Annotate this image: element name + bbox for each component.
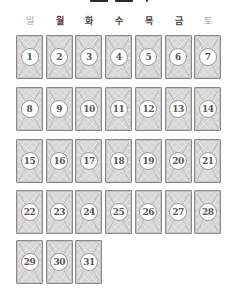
- day-card[interactable]: 11: [105, 87, 132, 131]
- day-card[interactable]: 30: [46, 240, 73, 284]
- day-number: 9: [56, 105, 62, 114]
- day-number: 16: [53, 157, 65, 166]
- day-number-badge: 20: [169, 152, 187, 170]
- day-number: 1: [27, 53, 33, 62]
- day-card[interactable]: 17: [75, 139, 102, 183]
- day-number: 23: [53, 208, 65, 217]
- day-card[interactable]: 1: [16, 35, 43, 79]
- weekday-tue: 화: [75, 14, 103, 28]
- day-number: 13: [172, 105, 184, 114]
- day-card[interactable]: 6: [165, 35, 192, 79]
- day-number-badge: 17: [80, 152, 98, 170]
- day-number: 6: [175, 53, 181, 62]
- weekday-wed: 수: [105, 14, 133, 28]
- day-card[interactable]: 29: [16, 240, 43, 284]
- day-number: 10: [83, 105, 95, 114]
- day-card[interactable]: 3: [75, 35, 102, 79]
- day-number-badge: 4: [110, 48, 128, 66]
- day-number-badge: 21: [199, 152, 217, 170]
- day-number: 19: [143, 157, 155, 166]
- day-number-badge: 13: [169, 100, 187, 118]
- day-number: 11: [113, 105, 125, 114]
- day-card[interactable]: 2: [46, 35, 73, 79]
- day-card[interactable]: 26: [135, 190, 162, 234]
- day-number: 27: [172, 208, 184, 217]
- day-card[interactable]: 13: [165, 87, 192, 131]
- day-card[interactable]: 4: [105, 35, 132, 79]
- day-number-badge: 3: [80, 48, 98, 66]
- title-glyph: [115, 0, 133, 2]
- day-number-badge: 10: [80, 100, 98, 118]
- day-number: 8: [27, 105, 33, 114]
- weekday-mon: 월: [46, 14, 74, 28]
- day-card[interactable]: 25: [105, 190, 132, 234]
- day-number: 18: [113, 157, 125, 166]
- day-number: 2: [56, 53, 62, 62]
- day-number: 7: [205, 53, 211, 62]
- day-number-badge: 22: [21, 203, 39, 221]
- day-number-badge: 6: [169, 48, 187, 66]
- day-card[interactable]: 24: [75, 190, 102, 234]
- day-number-badge: 29: [21, 253, 39, 271]
- title-glyph: [90, 0, 108, 2]
- day-card[interactable]: 10: [75, 87, 102, 131]
- day-number: 25: [113, 208, 125, 217]
- day-number: 29: [24, 258, 36, 267]
- day-number-badge: 27: [169, 203, 187, 221]
- day-card[interactable]: 8: [16, 87, 43, 131]
- day-number: 22: [24, 208, 36, 217]
- day-number: 15: [24, 157, 36, 166]
- weekday-fri: 금: [165, 14, 193, 28]
- day-card[interactable]: 16: [46, 139, 73, 183]
- page-title-clipped: [88, 0, 150, 3]
- day-number: 31: [83, 258, 95, 267]
- day-card[interactable]: 20: [165, 139, 192, 183]
- day-number-badge: 18: [110, 152, 128, 170]
- day-card[interactable]: 23: [46, 190, 73, 234]
- day-card[interactable]: 31: [75, 240, 102, 284]
- day-number: 17: [83, 157, 95, 166]
- day-number-badge: 25: [110, 203, 128, 221]
- weekday-header: 일 월 화 수 목 금 토: [16, 14, 223, 28]
- day-number: 20: [172, 157, 184, 166]
- day-number-badge: 7: [199, 48, 217, 66]
- title-glyph: [146, 0, 148, 2]
- day-number: 26: [143, 208, 155, 217]
- day-card[interactable]: 18: [105, 139, 132, 183]
- day-number-badge: 8: [21, 100, 39, 118]
- day-number-badge: 11: [110, 100, 128, 118]
- day-number-badge: 28: [199, 203, 217, 221]
- day-number: 30: [53, 258, 65, 267]
- day-card[interactable]: 7: [194, 35, 221, 79]
- day-card[interactable]: 15: [16, 139, 43, 183]
- day-card[interactable]: 9: [46, 87, 73, 131]
- day-number-badge: 31: [80, 253, 98, 271]
- day-number: 4: [116, 53, 122, 62]
- day-number-badge: 1: [21, 48, 39, 66]
- day-number-badge: 15: [21, 152, 39, 170]
- day-number: 14: [202, 105, 214, 114]
- day-card[interactable]: 14: [194, 87, 221, 131]
- day-number-badge: 14: [199, 100, 217, 118]
- weekday-thu: 목: [135, 14, 163, 28]
- day-number: 12: [143, 105, 155, 114]
- day-card[interactable]: 19: [135, 139, 162, 183]
- day-number: 24: [83, 208, 95, 217]
- day-card[interactable]: 27: [165, 190, 192, 234]
- day-number: 21: [202, 157, 214, 166]
- day-number: 5: [145, 53, 151, 62]
- day-card[interactable]: 12: [135, 87, 162, 131]
- day-number: 28: [202, 208, 214, 217]
- day-number-badge: 24: [80, 203, 98, 221]
- weekday-sat: 토: [194, 14, 222, 28]
- weekday-sun: 일: [16, 14, 44, 28]
- day-card[interactable]: 5: [135, 35, 162, 79]
- day-card[interactable]: 21: [194, 139, 221, 183]
- day-card[interactable]: 22: [16, 190, 43, 234]
- day-card[interactable]: 28: [194, 190, 221, 234]
- day-number: 3: [86, 53, 92, 62]
